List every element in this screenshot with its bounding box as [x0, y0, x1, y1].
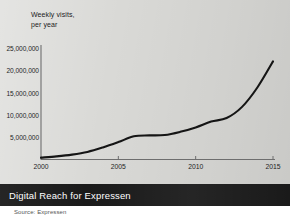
- y-axis-tick-label: 10,000,000: [0, 111, 39, 118]
- y-axis-caption: Weekly visits, per year: [31, 10, 75, 29]
- source-note: Source: Expressen: [14, 209, 66, 215]
- x-axis-tick-label: 2010: [188, 163, 203, 170]
- chart-title: Digital Reach for Expressen: [9, 190, 131, 201]
- x-axis-tick-label: 2015: [266, 163, 281, 170]
- caption-bar: Digital Reach for Expressen: [0, 184, 290, 206]
- data-series-line: [41, 61, 273, 157]
- x-axis-tick-label: 2000: [34, 163, 49, 170]
- chart-axes: [41, 45, 275, 160]
- x-axis-tick-label: 2005: [111, 163, 126, 170]
- plot-panel: Weekly visits, per year 5,000,00010,000,…: [0, 0, 290, 184]
- chart-figure: Weekly visits, per year 5,000,00010,000,…: [0, 0, 290, 219]
- y-axis-tick-label: 25,000,000: [0, 45, 39, 52]
- y-axis-tick-label: 5,000,000: [0, 134, 39, 141]
- y-axis-tick-label: 20,000,000: [0, 67, 39, 74]
- y-axis-tick-label: 15,000,000: [0, 89, 39, 96]
